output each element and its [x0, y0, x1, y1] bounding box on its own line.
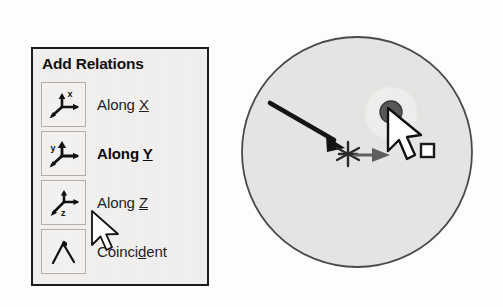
axis-along-z-icon[interactable]: z — [41, 180, 86, 225]
menu-item-coincident[interactable]: Coincident — [41, 227, 203, 276]
small-white-square-marker-icon[interactable] — [421, 144, 434, 157]
menu-item-along-z[interactable]: z Along Z — [41, 178, 203, 227]
menu-item-list: x Along X y Along Y — [41, 80, 203, 276]
menu-item-label-along-z: Along Z — [97, 194, 148, 211]
sketch-preview-graphic — [238, 16, 483, 296]
axis-along-x-icon[interactable]: x — [41, 82, 86, 127]
menu-item-label-along-x: Along X — [97, 96, 149, 113]
menu-accel-key: Y — [143, 145, 153, 162]
menu-title: Add Relations — [42, 55, 144, 73]
menu-item-along-x[interactable]: x Along X — [41, 80, 203, 129]
menu-label-text: Along — [97, 194, 139, 211]
menu-label-text-suffix: ent — [146, 243, 167, 260]
filled-circle-shape — [242, 37, 472, 267]
menu-accel-key: Z — [139, 194, 148, 211]
svg-text:z: z — [61, 208, 66, 218]
svg-text:y: y — [50, 143, 55, 153]
menu-item-label-coincident: Coincident — [97, 243, 167, 260]
menu-label-text: Coinci — [97, 243, 138, 260]
axis-along-y-icon[interactable]: y — [41, 131, 86, 176]
menu-label-text: Along — [97, 145, 143, 162]
add-relations-context-menu: Add Relations x Along X — [31, 47, 209, 286]
menu-item-label-along-y: Along Y — [97, 145, 153, 162]
menu-item-along-y[interactable]: y Along Y — [41, 129, 203, 178]
menu-label-text: Along — [97, 96, 139, 113]
svg-text:x: x — [67, 89, 72, 99]
coincident-angle-icon[interactable] — [41, 229, 86, 274]
menu-accel-key: X — [139, 96, 149, 113]
